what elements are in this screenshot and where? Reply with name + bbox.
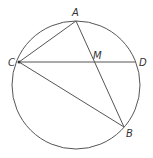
label-d: D	[139, 57, 147, 68]
label-a: A	[71, 7, 79, 18]
label-m: M	[93, 50, 102, 61]
label-c: C	[8, 57, 15, 68]
segment-ab	[76, 21, 124, 127]
label-b: B	[126, 128, 133, 139]
circle-geometry-diagram: A C M D B	[0, 0, 153, 158]
point-c-dot	[18, 61, 21, 64]
circle	[12, 21, 140, 149]
segment-cb	[19, 62, 124, 127]
